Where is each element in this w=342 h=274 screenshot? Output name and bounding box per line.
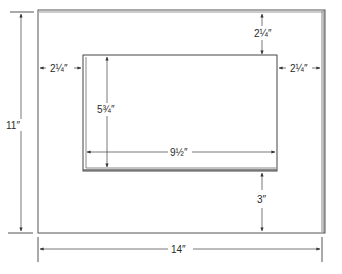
window-width-label: 9½″	[168, 147, 189, 158]
right-margin-label: 2¼″	[288, 63, 309, 74]
left-margin-label: 2¼″	[48, 63, 69, 74]
outer-height-label: 11″	[4, 120, 22, 131]
top-margin-label: 2¼″	[252, 28, 273, 39]
outer-width-label: 14″	[169, 244, 188, 255]
diagram-drawing	[0, 0, 342, 274]
window-height-label: 5¾″	[95, 104, 116, 115]
mat-diagram: 11″ 14″ 2¼″ 2¼″ 2¼″ 5¾″ 9½″ 3″	[0, 0, 342, 274]
bottom-margin-label: 3″	[255, 194, 268, 205]
